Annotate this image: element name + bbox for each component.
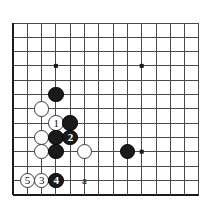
white-stone-move-1: 1 xyxy=(48,115,64,131)
white-stone-move-5: 5 xyxy=(20,173,36,189)
go-diagram: 12534 a xyxy=(0,0,207,213)
move-number: 5 xyxy=(25,174,30,185)
black-stone-move-2: 2 xyxy=(62,130,78,146)
black-stone-move-4: 4 xyxy=(48,173,64,189)
black-stone xyxy=(62,115,78,131)
point-label-a: a xyxy=(77,173,93,189)
white-stone xyxy=(34,101,50,117)
star-point xyxy=(54,64,58,68)
move-number: 4 xyxy=(53,174,58,185)
move-number: 3 xyxy=(39,174,44,185)
star-point xyxy=(140,64,144,68)
move-number: 2 xyxy=(68,131,73,142)
black-stone xyxy=(48,130,64,146)
black-stone xyxy=(48,87,64,103)
black-stone xyxy=(48,144,64,160)
star-point xyxy=(140,150,144,154)
move-number: 1 xyxy=(53,117,58,128)
